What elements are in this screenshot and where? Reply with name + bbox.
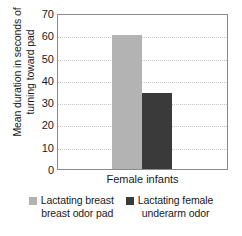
y-axis-tick-label: 50 bbox=[30, 53, 54, 65]
y-axis-tick-label: 70 bbox=[30, 8, 54, 20]
legend-label-line-2: underarm odor bbox=[138, 207, 213, 220]
y-axis-tick-label: 60 bbox=[30, 30, 54, 42]
legend-label: Lactating breastbreast odor pad bbox=[41, 194, 114, 220]
bar-chart-figure: Mean duration in seconds of turning towa… bbox=[0, 0, 242, 236]
y-axis-tick-labels: 706050403020100 bbox=[30, 8, 54, 172]
legend-label-line-2: breast odor pad bbox=[41, 207, 114, 220]
y-axis-title-line-1: Mean duration in seconds of bbox=[11, 7, 24, 136]
bar-2 bbox=[142, 93, 172, 169]
y-axis-tick-label: 10 bbox=[30, 142, 54, 154]
legend-label: Lactating femaleunderarm odor bbox=[138, 194, 213, 220]
legend-swatch-icon bbox=[29, 197, 37, 205]
legend-swatch-icon bbox=[126, 197, 134, 205]
chart-legend: Lactating breastbreast odor padLactating… bbox=[0, 194, 242, 220]
legend-label-line-1: Lactating female bbox=[138, 194, 213, 206]
legend-label-line-1: Lactating breast bbox=[41, 194, 114, 206]
y-axis-tick-label: 40 bbox=[30, 75, 54, 87]
legend-item-1: Lactating breastbreast odor pad bbox=[29, 194, 114, 220]
y-axis-tick-label: 0 bbox=[30, 164, 54, 176]
bars-layer bbox=[58, 15, 227, 169]
legend-item-2: Lactating femaleunderarm odor bbox=[126, 194, 213, 220]
y-axis-tick-label: 20 bbox=[30, 119, 54, 131]
x-axis-label: Female infants bbox=[57, 173, 228, 185]
plot-area bbox=[57, 14, 228, 170]
bar-1 bbox=[112, 35, 142, 169]
y-axis-tick-label: 30 bbox=[30, 97, 54, 109]
